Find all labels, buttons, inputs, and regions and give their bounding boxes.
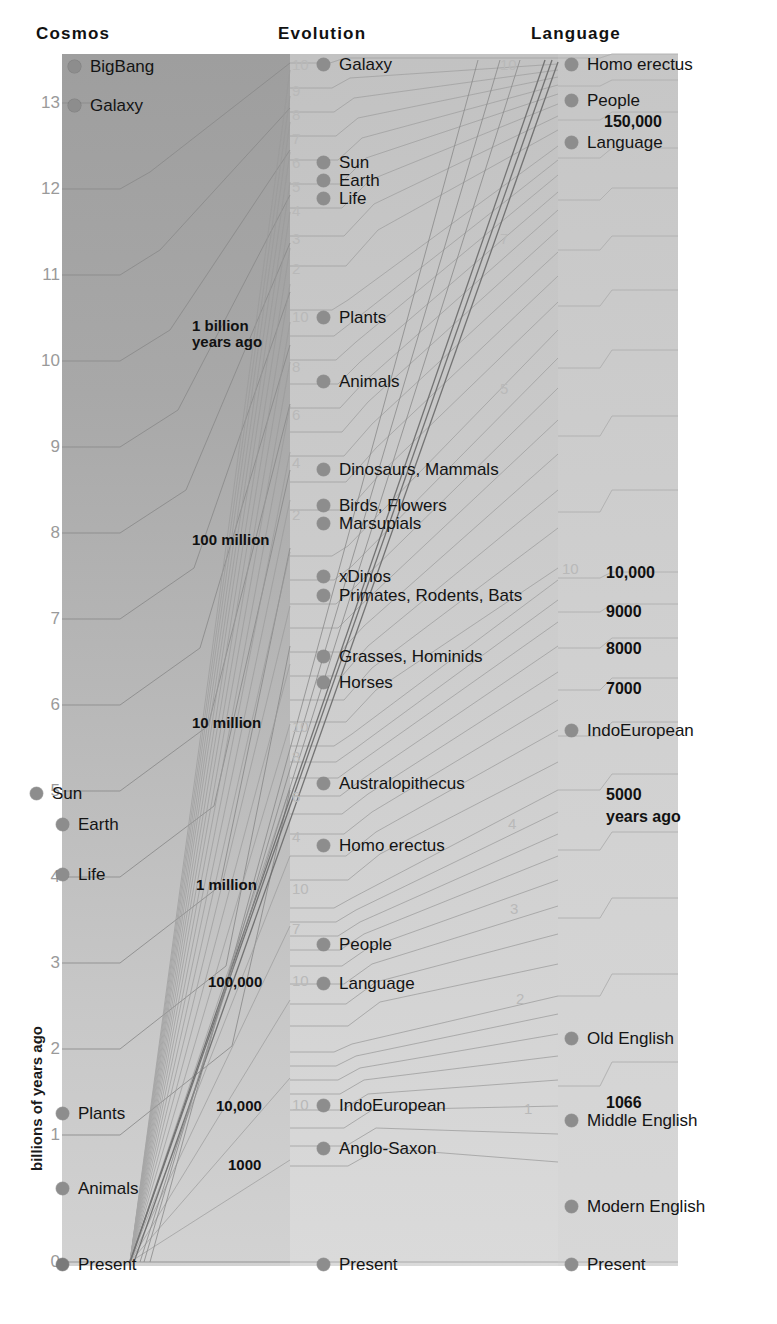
log-digit: 1 (524, 1100, 532, 1117)
log-digit: 4 (292, 828, 300, 845)
y-tick-11: 11 (22, 265, 60, 285)
event-label: IndoEuropean (587, 722, 694, 739)
language-number-7000: 7000 (606, 680, 642, 698)
event-label: Sun (52, 785, 82, 802)
evolution-event-primates-rodents-bats: Primates, Rodents, Bats (317, 587, 522, 604)
event-dot (317, 174, 330, 187)
column-heading-cosmos: Cosmos (36, 24, 110, 44)
log-digit: 7 (292, 920, 300, 937)
language-event-middle-english: Middle English (565, 1112, 698, 1129)
log-digit: 4 (292, 202, 300, 219)
log-digit: 10 (500, 56, 517, 73)
evolution-event-australopithecus: Australopithecus (317, 775, 465, 792)
log-digit: 2 (516, 990, 524, 1007)
event-label: Plants (339, 309, 386, 326)
language-event-people: People (565, 92, 640, 109)
event-label: Homo erectus (587, 56, 693, 73)
event-dot (317, 311, 330, 324)
event-dot (317, 499, 330, 512)
event-label: Dinosaurs, Mammals (339, 461, 499, 478)
log-digit: 10 (292, 880, 309, 897)
evolution-event-people: People (317, 936, 392, 953)
annotation-line1: 100,000 (208, 974, 262, 990)
y-tick-7: 7 (22, 609, 60, 629)
log-digit: 8 (292, 748, 300, 765)
event-label: Language (587, 134, 663, 151)
language-event-modern-english: Modern English (565, 1198, 705, 1215)
y-axis-label: billions of years ago (28, 999, 45, 1199)
log-digit: 8 (292, 358, 300, 375)
log-digit: 10 (292, 718, 309, 735)
log-digit: 7 (292, 130, 300, 147)
y-tick-4: 4 (22, 867, 60, 887)
event-dot (317, 463, 330, 476)
evolution-event-indoeuropean: IndoEuropean (317, 1097, 446, 1114)
event-dot (565, 58, 578, 71)
column-heading-language: Language (531, 24, 621, 44)
evolution-event-animals: Animals (317, 373, 399, 390)
evolution-event-language: Language (317, 975, 415, 992)
event-label: Middle English (587, 1112, 698, 1129)
event-label: BigBang (90, 58, 154, 75)
log-digit: 10 (292, 56, 309, 73)
log-digit: 10 (292, 308, 309, 325)
event-dot (317, 58, 330, 71)
event-dot (317, 839, 330, 852)
evolution-event-grasses-hominids: Grasses, Hominids (317, 648, 483, 665)
y-tick-8: 8 (22, 523, 60, 543)
event-dot (56, 818, 69, 831)
cosmos-event-sun: Sun (30, 785, 82, 802)
annotation-line1: 10,000 (216, 1098, 262, 1114)
event-label: Old English (587, 1030, 674, 1047)
log-digit: 6 (292, 154, 300, 171)
event-dot (56, 1107, 69, 1120)
annotation-line1: 100 million (192, 532, 270, 548)
event-dot (317, 977, 330, 990)
evolution-event-dinosaurs-mammals: Dinosaurs, Mammals (317, 461, 499, 478)
event-label: Life (339, 190, 366, 207)
cosmos-event-present: Present (56, 1256, 137, 1273)
event-dot (317, 1099, 330, 1112)
event-label: Galaxy (90, 97, 143, 114)
language-years-ago-label: years ago (606, 808, 681, 826)
annotation-line2: years ago (192, 334, 262, 350)
evolution-event-life: Life (317, 190, 366, 207)
event-dot (56, 868, 69, 881)
language-number-1066: 1066 (606, 1094, 642, 1112)
event-label: Present (339, 1256, 398, 1273)
event-label: People (587, 92, 640, 109)
event-label: Modern English (587, 1198, 705, 1215)
log-digit: 6 (292, 788, 300, 805)
event-dot (68, 99, 81, 112)
cosmos-event-animals: Animals (56, 1180, 138, 1197)
event-dot (565, 136, 578, 149)
annotation-10000: 10,000 (216, 1098, 262, 1114)
log-digit: 8 (292, 106, 300, 123)
event-label: Language (339, 975, 415, 992)
annotation-100-million: 100 million (192, 532, 270, 548)
event-label: People (339, 936, 392, 953)
evolution-event-birds-flowers: Birds, Flowers (317, 497, 447, 514)
event-dot (56, 1258, 69, 1271)
log-digit: 5 (292, 178, 300, 195)
language-event-homo-erectus: Homo erectus (565, 56, 693, 73)
language-event-present: Present (565, 1256, 646, 1273)
event-dot (565, 1200, 578, 1213)
cosmos-event-earth: Earth (56, 816, 119, 833)
annotation-line1: 1 billion (192, 318, 262, 334)
cosmos-event-bigbang: BigBang (68, 58, 154, 75)
log-digit: 10 (292, 1096, 309, 1113)
event-label: Primates, Rodents, Bats (339, 587, 522, 604)
event-dot (565, 1258, 578, 1271)
y-tick-0: 0 (22, 1252, 60, 1272)
language-number-5000: 5000 (606, 786, 642, 804)
language-event-indoeuropean: IndoEuropean (565, 722, 694, 739)
log-digit: 7 (500, 230, 508, 247)
log-digit: 9 (292, 82, 300, 99)
event-label: Homo erectus (339, 837, 445, 854)
event-dot (317, 375, 330, 388)
cosmos-event-life: Life (56, 866, 105, 883)
event-dot (565, 94, 578, 107)
timeline-figure: Cosmos Evolution Language 13 12 11 10 9 … (0, 0, 777, 1324)
evolution-event-sun: Sun (317, 154, 369, 171)
